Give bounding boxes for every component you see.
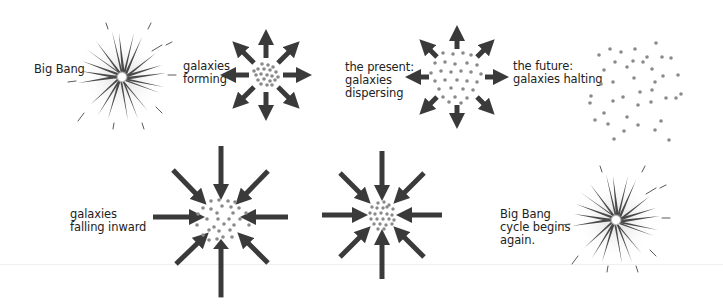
galaxies-contracting-figure bbox=[322, 151, 442, 279]
big-bang-again-burst-icon bbox=[562, 166, 670, 272]
galaxies-halting-figure bbox=[588, 41, 683, 142]
galaxies-dispersing-figure bbox=[413, 33, 501, 121]
big-bang-burst-icon bbox=[68, 23, 176, 129]
galaxies-forming-figure bbox=[228, 37, 304, 113]
cycle-diagram bbox=[0, 0, 723, 306]
galaxies-falling-inward-figure bbox=[153, 146, 288, 297]
